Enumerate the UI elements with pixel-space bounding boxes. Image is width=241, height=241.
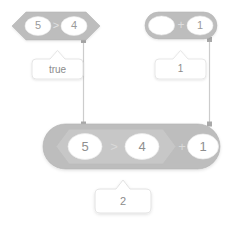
operand-slot-empty[interactable]	[149, 16, 175, 35]
combined-addition-block[interactable]	[43, 124, 220, 169]
connector-line-left	[81, 38, 86, 127]
diagram-svg	[0, 0, 241, 241]
greater-than-block[interactable]	[12, 12, 100, 40]
nested-operand-slot-left[interactable]	[68, 134, 102, 160]
result-callout-two	[95, 180, 151, 213]
callout-two-body	[95, 180, 151, 213]
combined-operand-slot-one[interactable]	[188, 134, 219, 159]
result-callout-true	[32, 51, 83, 80]
callout-true-body	[32, 51, 83, 80]
result-callout-one	[155, 51, 206, 80]
operand-slot-left[interactable]	[25, 17, 51, 36]
operand-slot-one[interactable]	[187, 16, 213, 35]
nested-operand-slot-right[interactable]	[125, 134, 159, 160]
connector-line-right	[207, 37, 212, 127]
addition-block[interactable]	[145, 12, 217, 39]
diagram-canvas: 5 > 4 + 1 true 1 2 5 > 4 + 1	[0, 0, 241, 241]
callout-one-body	[155, 51, 206, 80]
operand-slot-right[interactable]	[61, 17, 87, 36]
